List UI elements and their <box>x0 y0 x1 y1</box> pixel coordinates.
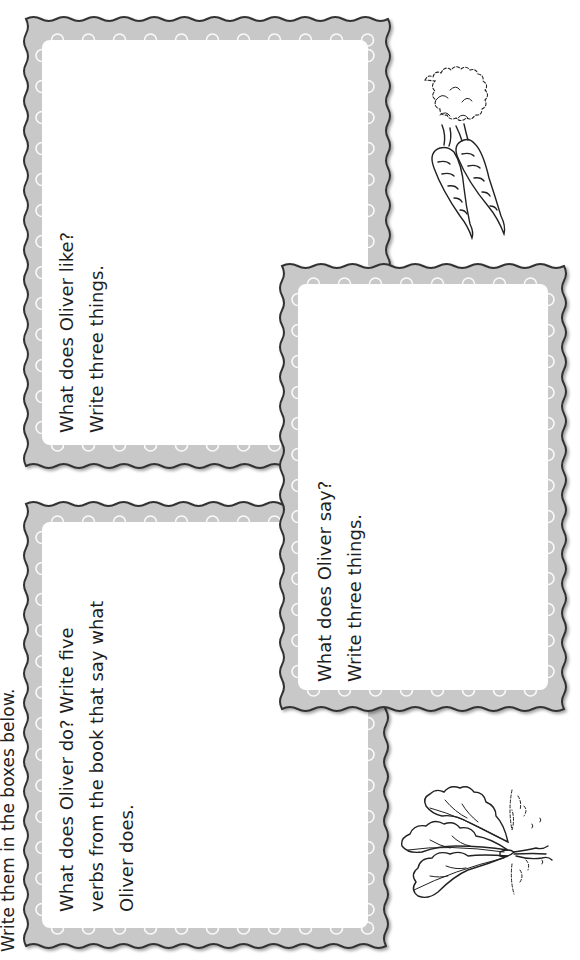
prompt-line: verbs from the book that say what <box>82 601 112 912</box>
prompt-line: What does Oliver say? <box>310 481 340 682</box>
prompt-line: Write three things. <box>82 232 112 433</box>
prompt-line: What does Oliver like? <box>52 232 82 433</box>
beet-icon <box>400 760 570 910</box>
prompt-text: What does Oliver do? Write five verbs fr… <box>52 601 142 912</box>
prompt-text: What does Oliver like? Write three thing… <box>52 232 112 433</box>
card-oliver-says: What does Oliver say? Write three things… <box>278 262 568 713</box>
prompt-line: What does Oliver do? Write five <box>52 601 82 912</box>
prompt-line: Oliver does. <box>112 601 142 912</box>
prompt-text: What does Oliver say? Write three things… <box>310 481 370 682</box>
instruction-text: Write them in the boxes below. <box>0 689 18 952</box>
prompt-line: Write three things. <box>340 481 370 682</box>
carrot-icon <box>400 40 550 245</box>
